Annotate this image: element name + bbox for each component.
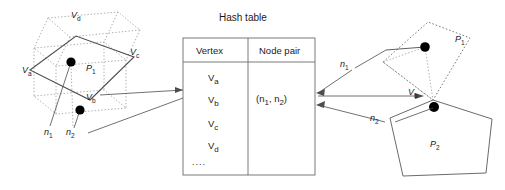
table-cell-vertex-vb: Vb bbox=[208, 94, 219, 108]
patch-p2-outline bbox=[390, 100, 492, 176]
connector-vb-to-table bbox=[100, 90, 183, 95]
leader-n2 bbox=[395, 108, 433, 122]
hash-table-title: Hash table bbox=[219, 12, 267, 23]
patch-p1-outline bbox=[30, 36, 134, 100]
left-label-n1: n1 bbox=[44, 128, 53, 139]
leader-n1 bbox=[355, 50, 386, 68]
left-label-vb: Vb bbox=[86, 93, 96, 104]
node-dot-patch-center bbox=[66, 57, 75, 66]
left-label-p1: P1 bbox=[86, 64, 96, 75]
right-node-dot-p2 bbox=[429, 102, 439, 112]
right-node-dot-p1 bbox=[420, 42, 430, 52]
p1-spoke-b bbox=[425, 47, 433, 100]
cube-front-face bbox=[34, 42, 126, 66]
left-label-vd: Vd bbox=[71, 11, 81, 22]
left-label-vc: Vc bbox=[130, 48, 139, 59]
leader-n1-to-table bbox=[318, 70, 352, 93]
table-cell-node-pair: (n1, n2) bbox=[256, 93, 287, 107]
right-label-p1: P1 bbox=[455, 35, 465, 46]
left-label-n2: n2 bbox=[66, 128, 75, 139]
figure-canvas: Hash table Vertex Node pair Va Vb Vc Vd … bbox=[0, 0, 505, 190]
table-header-vertex: Vertex bbox=[196, 45, 223, 56]
table-cell-vertex-vd: Vd bbox=[208, 140, 219, 154]
right-label-vb: Vb bbox=[408, 88, 418, 99]
right-label-n2: n2 bbox=[370, 114, 379, 125]
table-outer-border bbox=[183, 38, 315, 175]
node-stem-to-n2 bbox=[71, 62, 73, 126]
left-label-va: Va bbox=[22, 66, 32, 77]
node-dot-lower bbox=[75, 105, 84, 114]
node-stem-to-n1 bbox=[50, 62, 71, 126]
cube-back-face bbox=[48, 12, 140, 37]
table-header-node-pair: Node pair bbox=[259, 45, 300, 56]
p1-spoke-a bbox=[383, 47, 425, 62]
cube-edge-right bbox=[104, 12, 118, 42]
table-cell-ellipsis: .... bbox=[192, 157, 206, 167]
left-diagram-graphics bbox=[0, 0, 505, 190]
arrowhead-into-table-left bbox=[175, 87, 183, 93]
arrowhead-into-table-right-upper bbox=[316, 89, 325, 96]
right-label-n1: n1 bbox=[340, 60, 349, 71]
table-cell-vertex-vc: Vc bbox=[208, 118, 218, 132]
connector-n2-to-table bbox=[88, 98, 183, 133]
table-cell-vertex-va: Va bbox=[208, 72, 219, 86]
right-label-p2: P2 bbox=[430, 140, 440, 151]
cube-edge-left bbox=[34, 18, 48, 48]
p1-node-spoke-solid bbox=[386, 47, 425, 50]
arrowhead-into-table-right-lower bbox=[316, 101, 325, 108]
hash-table-grid bbox=[183, 38, 315, 175]
